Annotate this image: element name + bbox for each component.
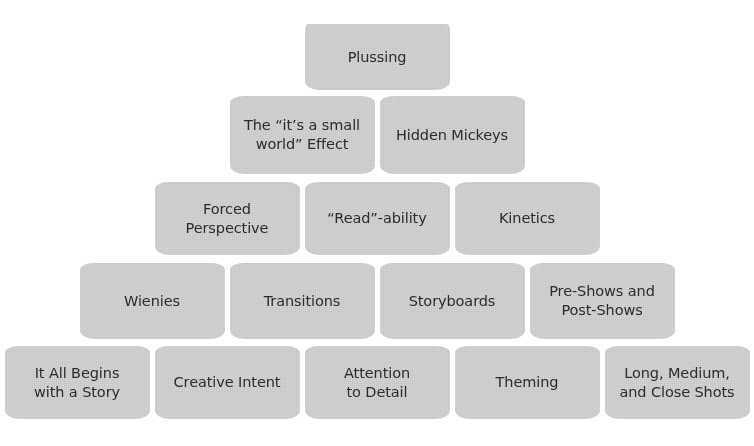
pyramid-block-long-medium-and-close-shots: Long, Medium, and Close Shots bbox=[605, 346, 750, 419]
pyramid-block-plussing: Plussing bbox=[305, 24, 450, 90]
pyramid-block-pre-shows-and-post-shows: Pre-Shows and Post-Shows bbox=[530, 263, 675, 339]
pyramid-block-kinetics: Kinetics bbox=[455, 182, 600, 255]
pyramid-row-5: It All Begins with a Story Creative Inte… bbox=[0, 346, 754, 420]
pyramid-block-theming: Theming bbox=[455, 346, 600, 419]
pyramid-block-label: Wienies bbox=[124, 292, 180, 311]
pyramid-block-label: “Read”-ability bbox=[327, 209, 426, 228]
pyramid-row-2: The “it’s a small world” Effect Hidden M… bbox=[0, 96, 754, 176]
pyramid-block-forced-perspective: Forced Perspective bbox=[155, 182, 300, 255]
pyramid-block-creative-intent: Creative Intent bbox=[155, 346, 300, 419]
pyramid-block-label: Kinetics bbox=[499, 209, 555, 228]
pyramid-block-storyboards: Storyboards bbox=[380, 263, 525, 339]
pyramid-row-1: Plussing bbox=[0, 24, 754, 90]
pyramid-block-attention-to-detail: Attention to Detail bbox=[305, 346, 450, 419]
pyramid-block-label: Plussing bbox=[348, 48, 407, 67]
pyramid-block-it-all-begins-with-a-story: It All Begins with a Story bbox=[5, 346, 150, 419]
pyramid-row-4: Wienies Transitions Storyboards Pre-Show… bbox=[0, 263, 754, 340]
pyramid-block-hidden-mickeys: Hidden Mickeys bbox=[380, 96, 525, 174]
pyramid-block-label: Theming bbox=[496, 373, 559, 392]
pyramid-block-label: Transitions bbox=[264, 292, 341, 311]
pyramid-block-label: Creative Intent bbox=[174, 373, 281, 392]
pyramid-block-read-ability: “Read”-ability bbox=[305, 182, 450, 255]
pyramid-block-label: It All Begins with a Story bbox=[34, 364, 120, 401]
pyramid-block-label: Pre-Shows and Post-Shows bbox=[549, 282, 655, 319]
pyramid-block-label: Long, Medium, and Close Shots bbox=[619, 364, 734, 401]
pyramid-block-transitions: Transitions bbox=[230, 263, 375, 339]
pyramid-block-label: Storyboards bbox=[409, 292, 496, 311]
pyramid-block-wienies: Wienies bbox=[80, 263, 225, 339]
pyramid-block-small-world-effect: The “it’s a small world” Effect bbox=[230, 96, 375, 174]
pyramid-block-label: Forced Perspective bbox=[186, 200, 269, 237]
pyramid-block-label: Attention to Detail bbox=[344, 364, 410, 401]
pyramid-block-label: Hidden Mickeys bbox=[396, 126, 508, 145]
pyramid-row-3: Forced Perspective “Read”-ability Kineti… bbox=[0, 182, 754, 256]
pyramid-block-label: The “it’s a small world” Effect bbox=[244, 116, 360, 153]
pyramid-diagram: Plussing The “it’s a small world” Effect… bbox=[0, 0, 754, 446]
